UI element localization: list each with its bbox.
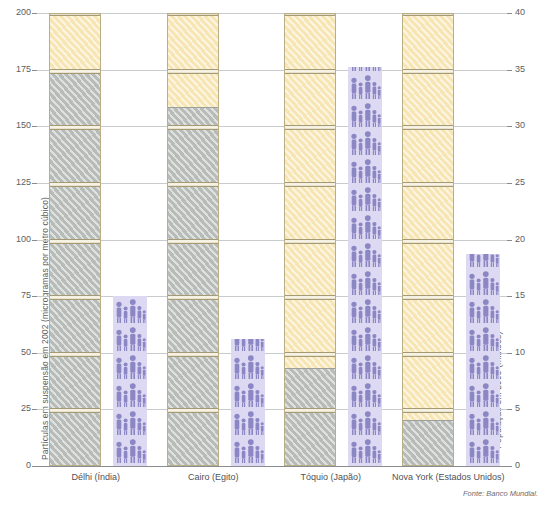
bar-group [272, 13, 390, 466]
pollution-bar-ring [49, 408, 101, 413]
pollution-bar-ring [402, 125, 454, 130]
y-tick-left-100: 100 [16, 234, 31, 244]
pollution-bar-ring [402, 352, 454, 357]
pollution-bar-measured-segment [403, 420, 453, 465]
tick-mark-left-0 [32, 466, 37, 467]
pollution-bar-ring [402, 408, 454, 413]
pollution-bar-ring [49, 239, 101, 244]
tick-mark-right-10 [507, 353, 512, 354]
pollution-bar-ring [49, 125, 101, 130]
y-tick-right-5: 5 [515, 403, 520, 413]
pollution-bar-stack-segment [50, 14, 100, 69]
pollution-bar[interactable] [402, 13, 454, 466]
pollution-bar-ring [167, 408, 219, 413]
pollution-bar-cap [167, 13, 219, 16]
tick-mark-right-30 [507, 126, 512, 127]
pollution-bar-ring [167, 295, 219, 300]
pollution-bar-ring [402, 295, 454, 300]
pollution-bar-stack-segment [168, 14, 218, 107]
y-tick-right-15: 15 [515, 290, 525, 300]
y-tick-left-25: 25 [21, 403, 31, 413]
tick-mark-right-40 [507, 13, 512, 14]
y-tick-left-50: 50 [21, 347, 31, 357]
pollution-bar-cap [402, 13, 454, 16]
pollution-bar-ring [49, 69, 101, 74]
population-bar[interactable] [231, 339, 265, 466]
pollution-bar-ring [49, 295, 101, 300]
y-tick-right-0: 0 [515, 460, 520, 470]
y-tick-left-125: 125 [16, 177, 31, 187]
y-tick-left-200: 200 [16, 7, 31, 17]
y-tick-left-175: 175 [16, 64, 31, 74]
population-bar[interactable] [466, 254, 500, 466]
y-tick-left-0: 0 [26, 460, 31, 470]
pollution-bar-stack-segment [403, 14, 453, 420]
tick-mark-right-35 [507, 70, 512, 71]
y-tick-right-40: 40 [515, 7, 525, 17]
tick-mark-right-20 [507, 240, 512, 241]
tick-mark-right-5 [507, 409, 512, 410]
y-tick-right-20: 20 [515, 234, 525, 244]
pollution-bar-measured-segment [285, 368, 335, 465]
pollution-bar-ring [284, 239, 336, 244]
pollution-bar-ring [167, 182, 219, 187]
y-tick-right-10: 10 [515, 347, 525, 357]
pollution-bar-ring [402, 239, 454, 244]
bar-group [390, 13, 508, 466]
pollution-bar-ring [167, 352, 219, 357]
pollution-bar-ring [167, 69, 219, 74]
pollution-bar-ring [402, 182, 454, 187]
x-axis-category-label: Nova York (Estados Unidos) [390, 472, 508, 482]
population-bar[interactable] [113, 296, 147, 466]
pollution-bar-ring [284, 182, 336, 187]
pollution-bar[interactable] [284, 13, 336, 466]
pollution-bar-stack-segment [285, 14, 335, 368]
y-tick-left-75: 75 [21, 290, 31, 300]
pollution-bar-ring [49, 352, 101, 357]
pollution-bar-ring [284, 352, 336, 357]
tick-mark-right-25 [507, 183, 512, 184]
y-tick-left-150: 150 [16, 120, 31, 130]
chart-container: Partículas em suspensão em 2002 (microgr… [0, 0, 548, 505]
pollution-bar[interactable] [167, 13, 219, 466]
y-tick-right-25: 25 [515, 177, 525, 187]
pollution-bar[interactable] [49, 13, 101, 466]
pollution-bar-ring [284, 408, 336, 413]
source-note: Fonte: Banco Mundial. [463, 489, 538, 498]
pollution-bar-ring [284, 295, 336, 300]
bar-group [155, 13, 273, 466]
x-axis-category-label: Tóquio (Japão) [272, 472, 390, 482]
gridline-left-0 [37, 466, 507, 467]
pollution-bar-ring [284, 125, 336, 130]
pollution-bar-cap [49, 13, 101, 16]
pollution-bar-ring [167, 239, 219, 244]
y-tick-right-35: 35 [515, 64, 525, 74]
tick-mark-right-15 [507, 296, 512, 297]
pollution-bar-cap [284, 13, 336, 16]
bar-group [37, 13, 155, 466]
pollution-bar-ring [49, 182, 101, 187]
x-axis-category-label: Cairo (Egito) [155, 472, 273, 482]
x-axis-category-label: Délhi (Índia) [37, 472, 155, 482]
tick-mark-right-0 [507, 466, 512, 467]
population-bar[interactable] [348, 67, 382, 466]
plot-area: 02550751001251501752000510152025303540 [37, 13, 507, 466]
pollution-bar-ring [284, 69, 336, 74]
y-tick-right-30: 30 [515, 120, 525, 130]
pollution-bar-ring [402, 69, 454, 74]
pollution-bar-ring [167, 125, 219, 130]
